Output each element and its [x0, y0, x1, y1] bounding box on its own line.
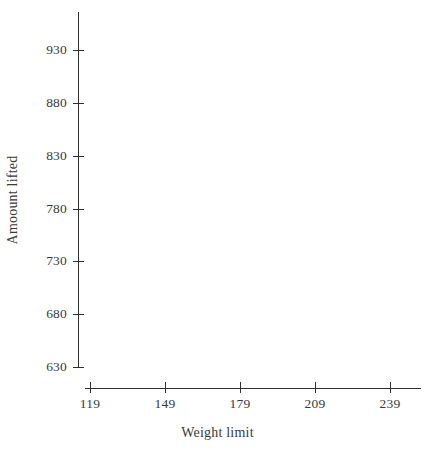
x-axis-tick-label: 119	[65, 396, 115, 411]
x-axis-tick-label: 239	[365, 396, 415, 411]
y-axis-title: Amoount lifted	[0, 130, 26, 270]
x-axis-tick	[240, 382, 241, 393]
y-axis-tick-label: 680	[25, 307, 67, 321]
y-axis-tick-label: 730	[25, 254, 67, 268]
y-axis-tick	[73, 50, 84, 51]
y-axis-tick-label: 630	[25, 360, 67, 374]
y-axis-tick	[73, 314, 84, 315]
x-axis-title: Weight limit	[0, 425, 435, 441]
y-axis-tick	[73, 367, 84, 368]
x-axis-tick-label: 149	[140, 396, 190, 411]
x-axis-tick	[90, 382, 91, 393]
y-axis-tick-label: 780	[25, 202, 67, 216]
x-axis-tick	[315, 382, 316, 393]
x-axis-tick	[390, 382, 391, 393]
chart-container: 930 880 830 780 730 680 630 119 149 179 …	[0, 0, 435, 457]
x-axis-tick-label: 209	[290, 396, 340, 411]
x-axis-line	[85, 388, 421, 389]
y-axis-tick-label: 930	[25, 43, 67, 57]
y-axis-tick-label: 830	[25, 149, 67, 163]
y-axis-tick	[73, 261, 84, 262]
y-axis-tick	[73, 156, 84, 157]
plot-area	[79, 12, 421, 388]
y-axis-tick	[73, 103, 84, 104]
x-axis-tick	[165, 382, 166, 393]
x-axis-tick-label: 179	[215, 396, 265, 411]
y-axis-title-text: Amoount lifted	[5, 156, 21, 245]
y-axis-tick	[73, 209, 84, 210]
y-axis-tick-label: 880	[25, 96, 67, 110]
